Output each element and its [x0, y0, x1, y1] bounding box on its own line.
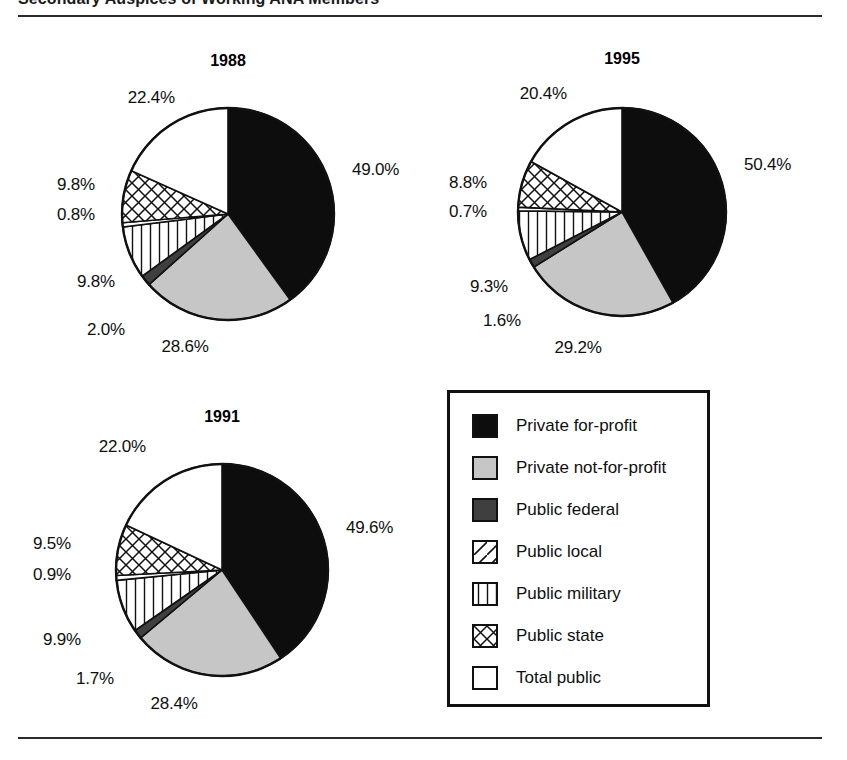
pie-1991: [113, 461, 331, 679]
pie-pct-label: 2.0%: [87, 320, 125, 340]
legend-row: Private not-for-profit: [472, 447, 697, 489]
pie-pct-label: 9.8%: [57, 175, 95, 195]
legend-label: Private for-profit: [516, 416, 637, 436]
pie-pct-label: 9.8%: [77, 272, 115, 292]
pie-pct-label: 50.4%: [744, 155, 791, 175]
pie-1988: [119, 105, 337, 323]
chart-title-1995: 1995: [542, 50, 702, 68]
pie-pct-label: 9.9%: [43, 630, 81, 650]
chart-title-1988: 1988: [148, 52, 308, 70]
legend-swatch-solid-dark: [472, 498, 498, 522]
pie-pct-label: 20.4%: [520, 84, 567, 104]
pie-pct-label: 49.6%: [346, 518, 393, 538]
pie-pct-label: 9.3%: [470, 277, 508, 297]
pie-pct-label: 0.7%: [449, 202, 487, 222]
pie-pct-label: 29.2%: [554, 338, 601, 358]
pie-pct-label: 9.5%: [33, 534, 71, 554]
legend-row: Public local: [472, 531, 697, 573]
legend-label: Public military: [516, 584, 621, 604]
legend-swatch-diag-forward: [472, 582, 498, 606]
legend-row: Public state: [472, 615, 697, 657]
chart-title-1991: 1991: [142, 408, 302, 426]
legend-swatch-solid-light: [472, 456, 498, 480]
legend-row: Private for-profit: [472, 405, 697, 447]
legend-label: Private not-for-profit: [516, 458, 666, 478]
pie-pct-label: 0.9%: [33, 565, 71, 585]
figure-title: Secondary Auspices of Working ANA Member…: [18, 0, 379, 8]
bottom-rule: [18, 737, 822, 739]
legend-row: Public military: [472, 573, 697, 615]
legend-label: Public federal: [516, 500, 619, 520]
legend-box: Private for-profitPrivate not-for-profit…: [447, 390, 710, 707]
pie-pct-label: 22.0%: [99, 437, 146, 457]
top-rule: [18, 15, 822, 17]
legend-row: Public federal: [472, 489, 697, 531]
legend-label: Public state: [516, 626, 604, 646]
pie-pct-label: 1.7%: [76, 669, 114, 689]
legend-swatch-white: [472, 666, 498, 690]
legend-label: Total public: [516, 668, 601, 688]
pie-pct-label: 22.4%: [128, 88, 175, 108]
pie-1995: [515, 105, 729, 319]
pie-pct-label: 0.8%: [57, 205, 95, 225]
legend-list: Private for-profitPrivate not-for-profit…: [472, 405, 697, 699]
pie-pct-label: 49.0%: [352, 160, 399, 180]
pie-pct-label: 28.6%: [161, 337, 208, 357]
legend-swatch-solid-black: [472, 414, 498, 438]
pie-pct-label: 8.8%: [449, 173, 487, 193]
legend-label: Public local: [516, 542, 602, 562]
legend-row: Total public: [472, 657, 697, 699]
pie-pct-label: 1.6%: [483, 311, 521, 331]
legend-swatch-diag-backward: [472, 540, 498, 564]
pie-pct-label: 28.4%: [150, 694, 197, 714]
figure-page: Secondary Auspices of Working ANA Member…: [0, 0, 847, 760]
legend-swatch-crosshatch: [472, 624, 498, 648]
